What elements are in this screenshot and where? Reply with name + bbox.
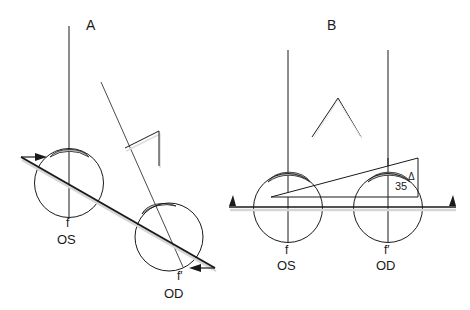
od-label-b: OD <box>376 258 396 273</box>
target-caret-shadow <box>313 100 362 139</box>
os-label-b: OS <box>277 258 296 273</box>
panel-a-label: A <box>86 17 96 33</box>
prism-power: 35 <box>395 180 407 192</box>
right-eye-od <box>135 203 203 271</box>
prism-a <box>125 131 160 168</box>
prism-b: 35 Δ <box>271 158 418 197</box>
arrow-left-icon <box>189 264 201 272</box>
eyeball-circle <box>135 203 203 271</box>
od-label: OD <box>164 286 184 301</box>
os-label: OS <box>57 232 76 247</box>
right-end-triangle-icon <box>449 195 456 206</box>
diagram-canvas: A f OS f′ OD <box>0 0 470 310</box>
arrow-right-icon <box>35 153 47 161</box>
od-visual-axis <box>101 82 183 267</box>
tilt-line <box>21 157 215 268</box>
left-end-triangle-icon <box>229 195 236 206</box>
diagram-svg: A f OS f′ OD <box>0 0 470 310</box>
od-fovea-label-b: f′ <box>384 243 390 257</box>
panel-b: B 35 Δ f OS f′ OD <box>229 17 456 273</box>
os-fovea-label-b: f <box>285 243 289 257</box>
panel-a: A f OS f′ OD <box>21 17 216 301</box>
panel-b-label: B <box>327 17 336 33</box>
os-fovea-label: f <box>66 216 70 230</box>
target-caret-icon <box>312 98 361 137</box>
tilt-line-shadow <box>22 160 216 271</box>
od-fovea-label: f′ <box>177 269 183 283</box>
